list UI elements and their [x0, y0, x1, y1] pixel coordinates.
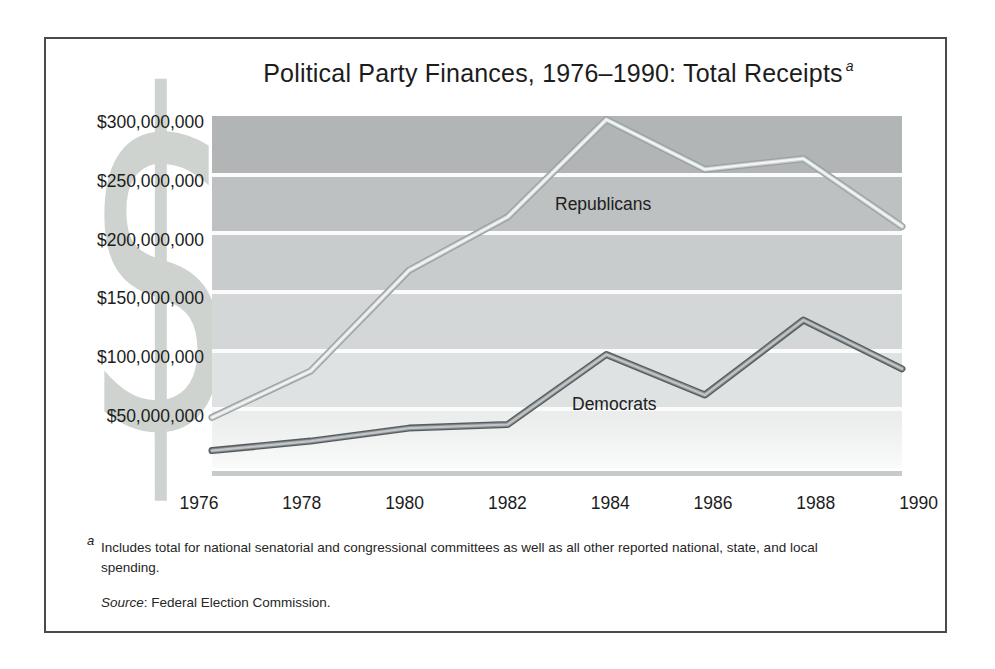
x-axis-label: 1978: [260, 493, 344, 513]
x-axis-label: 1986: [671, 493, 755, 513]
zero-baseline: [212, 471, 902, 476]
footnote-text: Includes total for national senatorial a…: [101, 538, 849, 579]
x-axis: 19761978198019821984198619881990: [46, 493, 947, 517]
republicans-line: [212, 120, 902, 418]
y-axis-label: $300,000,000: [46, 113, 204, 131]
y-axis-label: $100,000,000: [46, 348, 204, 366]
x-axis-label: 1982: [465, 493, 549, 513]
y-axis: $300,000,000$250,000,000$200,000,000$150…: [46, 39, 206, 499]
figure-border: $ Political Party Finances, 1976–1990: T…: [44, 37, 947, 633]
chart-title-text: Political Party Finances, 1976–1990: Tot…: [263, 59, 843, 87]
series-lines: [212, 116, 902, 478]
series-label-republicans: Republicans: [555, 194, 651, 215]
title-superscript: a: [846, 58, 854, 74]
y-axis-label: $250,000,000: [46, 172, 204, 190]
x-axis-label: 1984: [568, 493, 652, 513]
democrats-line: [212, 320, 902, 451]
source-label: Source: [101, 595, 144, 610]
y-axis-label: $150,000,000: [46, 289, 204, 307]
x-axis-label: 1980: [363, 493, 447, 513]
x-axis-label: 1990: [877, 493, 947, 513]
y-axis-label: $50,000,000: [46, 407, 204, 425]
plot-area: [212, 116, 902, 468]
source-text: : Federal Election Commission.: [144, 595, 331, 610]
chart-title: Political Party Finances, 1976–1990: Tot…: [212, 59, 902, 88]
source-line: Source: Federal Election Commission.: [101, 595, 331, 610]
footnote-marker: a: [87, 533, 94, 548]
x-axis-label: 1976: [157, 493, 241, 513]
figure-page: $ Political Party Finances, 1976–1990: T…: [0, 0, 995, 669]
series-label-democrats: Democrats: [572, 394, 657, 415]
y-axis-label: $200,000,000: [46, 231, 204, 249]
x-axis-label: 1988: [774, 493, 858, 513]
